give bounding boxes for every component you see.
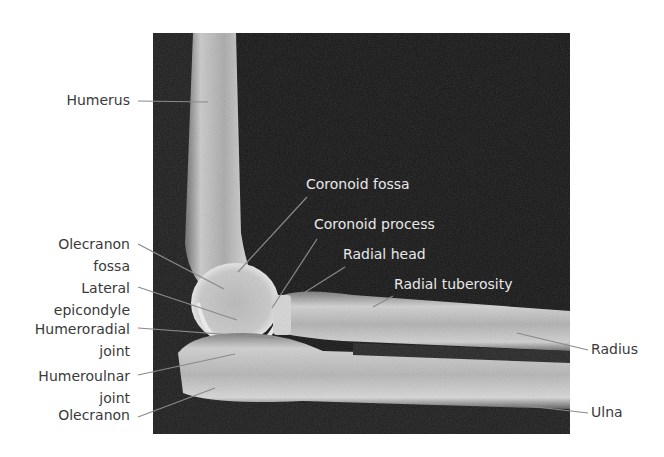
- label-olecranon-fossa: Olecranon fossa: [30, 233, 130, 277]
- label-humerus: Humerus: [60, 92, 130, 109]
- label-humeroradial-joint: Humeroradial joint: [10, 318, 130, 362]
- label-olecranon: Olecranon: [30, 407, 130, 424]
- label-ulna: Ulna: [591, 404, 623, 421]
- label-radius: Radius: [591, 341, 638, 358]
- label-radial-head: Radial head: [343, 246, 426, 263]
- label-coronoid-process: Coronoid process: [314, 216, 435, 233]
- label-lateral-epicondyle: Lateral epicondyle: [30, 277, 130, 321]
- label-coronoid-fossa: Coronoid fossa: [306, 176, 410, 193]
- elbow-xray-image: [153, 33, 570, 434]
- label-radial-tuberosity: Radial tuberosity: [394, 276, 513, 293]
- label-humeroulnar-joint: Humeroulnar joint: [10, 365, 130, 409]
